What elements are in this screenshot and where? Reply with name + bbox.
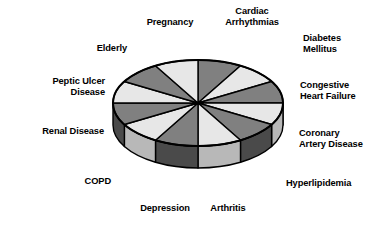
pie-chart-figure: Cardiac ArrhythmiasDiabetes MellitusCong… — [0, 0, 390, 228]
pie-label-peptic-ulcer-disease: Peptic Ulcer Disease — [52, 76, 105, 97]
pie-label-arthritis: Arthritis — [210, 203, 245, 214]
pie-label-diabetes-mellitus: Diabetes Mellitus — [303, 33, 341, 54]
pie-label-pregnancy: Pregnancy — [147, 17, 194, 28]
pie-label-depression: Depression — [140, 203, 190, 214]
pie-label-cardiac-arrhythmias: Cardiac Arrhythmias — [225, 6, 279, 27]
pie-label-renal-disease: Renal Disease — [42, 126, 104, 137]
pie-label-coronary-artery-disease: Coronary Artery Disease — [299, 128, 363, 149]
pie-label-hyperlipidemia: Hyperlipidemia — [286, 178, 351, 189]
pie-label-congestive-heart-failure: Congestive Heart Failure — [300, 80, 356, 101]
pie-label-copd: COPD — [85, 176, 111, 187]
pie-label-elderly: Elderly — [97, 43, 127, 54]
pie-top-layer — [113, 60, 283, 146]
